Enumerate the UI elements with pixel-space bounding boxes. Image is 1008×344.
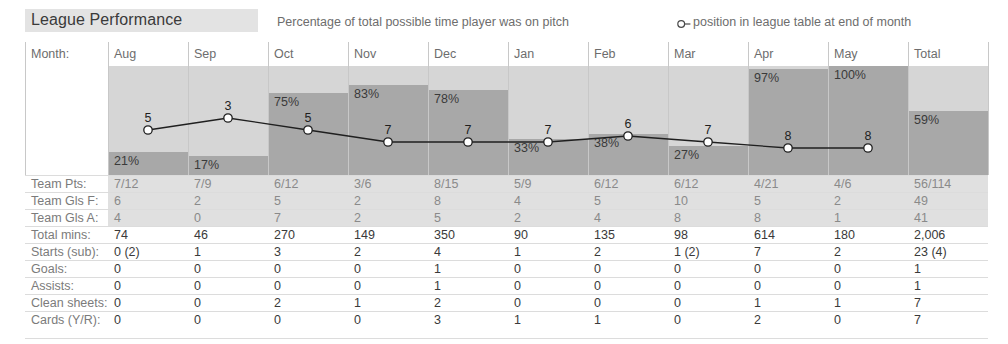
table-cell: 1 (914, 279, 921, 293)
position-value-label: 7 (545, 124, 552, 137)
position-marker (464, 138, 472, 146)
table-cell: 1 (434, 279, 441, 293)
table-cell: 6/12 (674, 177, 698, 191)
column-separator (348, 42, 349, 66)
table-cell: 1 (834, 211, 841, 225)
position-marker (704, 138, 712, 146)
row-label: Goals: (31, 262, 67, 276)
table-cell: 0 (674, 296, 681, 310)
table-cell: 2 (754, 313, 761, 327)
row-tint-background (108, 209, 988, 226)
row-separator (25, 260, 988, 261)
table-cell: 7 (914, 296, 921, 310)
column-header-apr: Apr (754, 47, 773, 61)
table-cell: 0 (114, 296, 121, 310)
table-cell: 0 (194, 296, 201, 310)
table-cell: 0 (754, 262, 761, 276)
row-tint-background (108, 175, 988, 192)
table-cell: 0 (674, 279, 681, 293)
column-separator (748, 42, 749, 66)
position-marker (784, 144, 792, 152)
table-cell: 270 (274, 228, 295, 242)
table-cell: 1 (434, 262, 441, 276)
table-cell: 41 (914, 211, 928, 225)
table-cell: 5 (594, 194, 601, 208)
league-performance-panel: League Performance Percentage of total p… (0, 0, 1008, 344)
column-separator (588, 42, 589, 66)
table-cell: 2 (354, 245, 361, 259)
pitch-time-chart: 21%17%75%83%78%33%38%27%97%100%59%535777… (0, 66, 1008, 175)
row-label: Cards (Y/R): (31, 313, 100, 327)
table-cell: 74 (114, 228, 128, 242)
table-cell: 98 (674, 228, 688, 242)
table-cell: 90 (514, 228, 528, 242)
position-value-label: 8 (785, 130, 792, 143)
table-cell: 0 (594, 296, 601, 310)
column-separator (988, 42, 989, 66)
table-cell: 0 (194, 262, 201, 276)
row-separator (25, 294, 988, 295)
table-cell: 3 (434, 313, 441, 327)
row-separator (25, 277, 988, 278)
table-cell: 0 (354, 313, 361, 327)
position-value-label: 7 (385, 124, 392, 137)
table-cell: 0 (834, 279, 841, 293)
table-cell: 7/9 (194, 177, 211, 191)
table-cell: 2 (834, 245, 841, 259)
table-row: Team Gls F:6252845105249 (0, 192, 1008, 209)
table-cell: 8 (754, 211, 761, 225)
column-separator (908, 42, 909, 66)
table-cell: 2 (274, 296, 281, 310)
position-value-label: 5 (305, 112, 312, 125)
column-header-total: Total (914, 47, 940, 61)
table-cell: 0 (114, 279, 121, 293)
column-separator (268, 42, 269, 66)
column-separator (668, 42, 669, 66)
row-separator (25, 192, 988, 193)
table-bottom-rule (25, 338, 988, 339)
table-cell: 149 (354, 228, 375, 242)
column-separator (108, 42, 109, 66)
position-marker (864, 144, 872, 152)
table-row: Clean sheets:00212000117 (0, 294, 1008, 311)
table-cell: 1 (914, 262, 921, 276)
table-cell: 0 (834, 262, 841, 276)
table-cell: 4 (594, 211, 601, 225)
table-row: Assists:00001000001 (0, 277, 1008, 294)
table-cell: 5 (434, 211, 441, 225)
position-marker (144, 126, 152, 134)
table-cell: 10 (674, 194, 688, 208)
table-cell: 0 (274, 313, 281, 327)
table-cell: 1 (754, 296, 761, 310)
table-cell: 2 (354, 194, 361, 208)
table-cell: 0 (274, 262, 281, 276)
legend-position-text: position in league table at end of month (693, 15, 911, 29)
column-header-dec: Dec (434, 47, 456, 61)
table-cell: 4/21 (754, 177, 778, 191)
table-cell: 7 (914, 313, 921, 327)
table-cell: 0 (514, 262, 521, 276)
table-cell: 6/12 (594, 177, 618, 191)
table-cell: 0 (834, 313, 841, 327)
table-cell: 0 (2) (114, 245, 140, 259)
table-cell: 5 (274, 194, 281, 208)
row-separator (25, 209, 988, 210)
table-cell: 0 (674, 262, 681, 276)
table-cell: 2 (194, 194, 201, 208)
table-cell: 0 (674, 313, 681, 327)
column-header-mar: Mar (674, 47, 696, 61)
table-cell: 1 (834, 296, 841, 310)
row-separator (25, 243, 988, 244)
column-header-may: May (834, 47, 858, 61)
table-row: Starts (sub):0 (2)1324121 (2)7223 (4) (0, 243, 1008, 260)
table-cell: 2 (354, 211, 361, 225)
page-title: League Performance (31, 11, 182, 29)
column-header-aug: Aug (114, 47, 136, 61)
table-cell: 135 (594, 228, 615, 242)
table-cell: 4 (434, 245, 441, 259)
table-row: Team Pts:7/127/96/123/68/155/96/126/124/… (0, 175, 1008, 192)
table-cell: 2 (594, 245, 601, 259)
table-cell: 0 (194, 313, 201, 327)
table-cell: 7 (754, 245, 761, 259)
table-cell: 1 (2) (674, 245, 700, 259)
